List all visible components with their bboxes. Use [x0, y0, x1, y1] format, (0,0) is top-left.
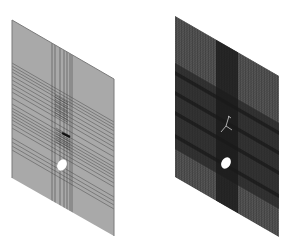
panel-geometry-partition [12, 20, 114, 236]
figure-stage [0, 0, 292, 246]
plate-left [12, 20, 114, 236]
plate-figure [0, 0, 292, 246]
panel-meshed-model [175, 16, 279, 237]
